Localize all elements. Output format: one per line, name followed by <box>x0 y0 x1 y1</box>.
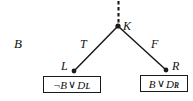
node-label-k: K <box>123 20 131 32</box>
edge-label-true: T <box>80 38 87 50</box>
decision-tree-figure: B K L R T F ¬B∨DL B∨DR <box>0 0 193 101</box>
literal-left: B <box>60 79 67 91</box>
literal-right: B <box>149 78 156 90</box>
node-label-r: R <box>172 60 179 72</box>
disjunct-subscript-left: L <box>85 82 90 91</box>
node-dot-r <box>164 68 169 73</box>
node-label-l: L <box>61 60 68 72</box>
clause-box-right: B∨DR <box>140 75 188 92</box>
edge-label-false: F <box>151 38 158 50</box>
or-operator-right: ∨ <box>156 77 166 90</box>
clause-box-left: ¬B∨DL <box>43 76 101 93</box>
node-dot-k <box>115 23 120 28</box>
side-label-b: B <box>14 37 22 50</box>
or-operator-left: ∨ <box>67 78 77 91</box>
disjunct-right: D <box>166 78 174 90</box>
node-dot-l <box>72 69 77 74</box>
disjunct-subscript-right: R <box>174 81 179 90</box>
